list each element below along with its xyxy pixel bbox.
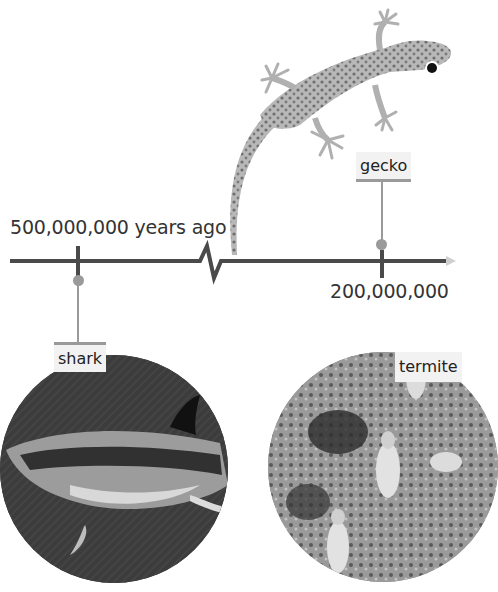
shark-connector bbox=[77, 284, 79, 342]
shark-image bbox=[0, 355, 228, 583]
gecko-marker-dot bbox=[376, 239, 387, 250]
gecko-connector bbox=[381, 182, 383, 244]
timeline-break-icon bbox=[200, 246, 222, 278]
gecko-label: gecko bbox=[356, 152, 411, 182]
timeline-tick-label: 200,000,000 bbox=[330, 280, 449, 302]
gecko-image bbox=[200, 0, 456, 260]
termite-image bbox=[268, 352, 498, 582]
shark-label: shark bbox=[54, 342, 106, 372]
termite-label: termite bbox=[395, 352, 462, 382]
